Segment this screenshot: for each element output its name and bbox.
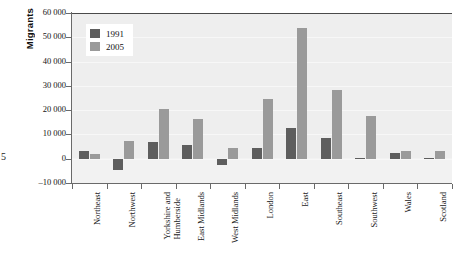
x-axis-tick xyxy=(245,184,246,189)
x-axis-tick xyxy=(383,184,384,189)
y-axis-tick-label: –10 000 xyxy=(18,177,66,187)
bar-1991-scotland xyxy=(424,158,434,159)
y-axis-tick-label: 0 xyxy=(18,153,66,163)
category-label-line: Scotland xyxy=(439,192,449,222)
y-axis-tick xyxy=(66,37,71,38)
x-axis-tick xyxy=(141,184,142,189)
bar-1991-east-midlands xyxy=(182,145,192,158)
category-label-line: London xyxy=(266,192,276,218)
migrants-bar-chart: Migrants 60 00050 00040 00030 00020 0001… xyxy=(0,0,466,262)
legend-label-1991: 1991 xyxy=(106,29,124,39)
bar-1991-southeast xyxy=(321,138,331,159)
bar-2005-west-midlands xyxy=(228,148,238,159)
category-label-london: London xyxy=(266,192,276,218)
category-label-line: East Midlands xyxy=(197,192,207,241)
category-label-wales: Wales xyxy=(404,192,414,213)
category-label-west-midlands: West Midlands xyxy=(231,192,241,243)
bar-2005-southeast xyxy=(332,90,342,159)
y-axis-tick-label: 60 000 xyxy=(18,7,66,17)
category-label-east-midlands: East Midlands xyxy=(197,192,207,241)
category-label-line: Southwest xyxy=(370,192,380,227)
bar-1991-northeast xyxy=(79,151,89,158)
below-zero-band xyxy=(72,158,452,183)
x-axis-tick xyxy=(107,184,108,189)
bar-1991-southwest xyxy=(355,158,365,159)
category-label-southwest: Southwest xyxy=(370,192,380,227)
y-axis-tick-label: 30 000 xyxy=(18,80,66,90)
bar-2005-southwest xyxy=(366,116,376,159)
category-label-east: East xyxy=(301,192,311,207)
category-label-scotland: Scotland xyxy=(439,192,449,222)
bar-2005-scotland xyxy=(435,151,445,159)
y-axis-tick-label: 40 000 xyxy=(18,56,66,66)
bar-2005-london xyxy=(263,99,273,159)
category-label-line: Southeast xyxy=(335,192,345,225)
legend-swatch-2005 xyxy=(90,42,100,51)
category-label-line: East xyxy=(301,192,311,207)
chart-legend: 19912005 xyxy=(86,24,133,56)
y-axis-tick xyxy=(66,62,71,63)
x-axis-tick xyxy=(72,184,73,189)
bar-2005-northeast xyxy=(90,154,100,158)
bar-2005-wales xyxy=(401,151,411,159)
category-label-northwest: Northwest xyxy=(128,192,138,227)
category-label-line: Northeast xyxy=(93,192,103,225)
gridline xyxy=(72,159,452,160)
bar-1991-london xyxy=(252,148,262,159)
category-label-line: Wales xyxy=(404,192,414,213)
bar-1991-northwest xyxy=(113,159,123,170)
y-axis-tick-labels: 60 00050 00040 00030 00020 00010 0000–10… xyxy=(14,0,66,262)
bar-1991-east xyxy=(286,128,296,158)
bar-1991-west-midlands xyxy=(217,159,227,165)
x-axis-tick xyxy=(279,184,280,189)
y-axis-tick xyxy=(66,159,71,160)
y-axis-tick-label: 10 000 xyxy=(18,128,66,138)
bar-1991-yorkshire-and-humberside xyxy=(148,142,158,159)
y-axis-line xyxy=(71,12,72,184)
y-axis-tick-label: 20 000 xyxy=(18,104,66,114)
y-axis-tick xyxy=(66,134,71,135)
x-axis-tick xyxy=(210,184,211,189)
bar-2005-east xyxy=(297,28,307,159)
y-axis-tick xyxy=(66,110,71,111)
category-label-line: Humberside xyxy=(173,192,183,240)
legend-item-2005: 2005 xyxy=(90,40,124,53)
bar-2005-northwest xyxy=(124,141,134,159)
y-axis-tick-label: 50 000 xyxy=(18,31,66,41)
x-axis-tick xyxy=(314,184,315,189)
gridline xyxy=(72,62,452,63)
bar-2005-yorkshire-and-humberside xyxy=(159,109,169,159)
y-axis-tick xyxy=(66,86,71,87)
x-axis-tick xyxy=(452,184,453,189)
category-label-line: Northwest xyxy=(128,192,138,227)
bar-2005-east-midlands xyxy=(193,119,203,159)
x-axis-tick xyxy=(348,184,349,189)
legend-item-1991: 1991 xyxy=(90,27,124,40)
category-label-yorkshire-and-humberside: Yorkshire andHumberside xyxy=(163,192,182,240)
x-axis-tick xyxy=(417,184,418,189)
bar-1991-wales xyxy=(390,153,400,158)
category-label-southeast: Southeast xyxy=(335,192,345,225)
category-label-line: West Midlands xyxy=(231,192,241,243)
zero-axis-line xyxy=(72,13,452,14)
gridline xyxy=(72,86,452,87)
category-label-northeast: Northeast xyxy=(93,192,103,225)
x-axis-tick xyxy=(176,184,177,189)
legend-swatch-1991 xyxy=(90,29,100,38)
x-axis-line xyxy=(71,183,452,184)
y-axis-tick xyxy=(66,13,71,14)
legend-label-2005: 2005 xyxy=(106,42,124,52)
